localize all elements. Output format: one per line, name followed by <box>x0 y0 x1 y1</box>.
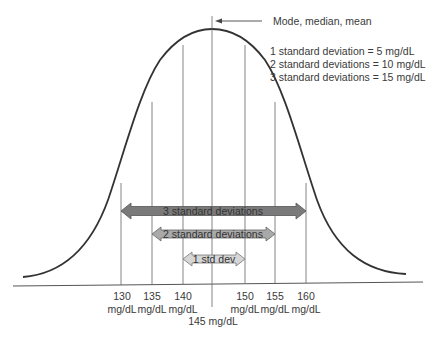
tick-150-unit: mg/dL <box>230 303 259 315</box>
tick-145: 145 mg/dL <box>188 315 238 327</box>
range-arrow-2sd-label: 2 standard deviations <box>163 228 263 240</box>
tick-135-unit: mg/dL <box>137 303 166 315</box>
tick-130: 130 <box>113 290 131 302</box>
normal-distribution-chart: Mode, median, mean 1 standard deviation … <box>0 0 432 341</box>
center-annotation-label: Mode, median, mean <box>273 15 372 27</box>
x-tick-labels: 130 mg/dL 135 mg/dL 140 mg/dL 145 mg/dL … <box>107 290 320 327</box>
tick-160: 160 <box>297 290 315 302</box>
range-arrow-2sd: 2 standard deviations <box>152 227 275 241</box>
tick-140-unit: mg/dL <box>168 303 197 315</box>
range-arrow-1sd-label: 1 std dev <box>193 253 236 265</box>
x-axis-baseline <box>13 282 423 286</box>
tick-155: 155 <box>266 290 284 302</box>
tick-150: 150 <box>236 290 254 302</box>
sd3-legend: 3 standard deviations = 15 mg/dL <box>270 71 426 83</box>
center-annotation-arrow <box>215 19 262 24</box>
arrowhead-left-icon <box>215 19 222 24</box>
range-arrow-3sd-label: 3 standard deviations <box>163 205 263 217</box>
tick-130-unit: mg/dL <box>107 303 136 315</box>
tick-155-unit: mg/dL <box>260 303 289 315</box>
sd1-legend: 1 standard deviation = 5 mg/dL <box>270 45 415 57</box>
tick-140: 140 <box>174 290 192 302</box>
tick-135: 135 <box>143 290 161 302</box>
tick-160-unit: mg/dL <box>291 303 320 315</box>
range-arrow-1sd: 1 std dev <box>183 252 245 266</box>
sd2-legend: 2 standard deviations = 10 mg/dL <box>270 58 426 70</box>
range-arrow-3sd: 3 standard deviations <box>121 203 306 219</box>
